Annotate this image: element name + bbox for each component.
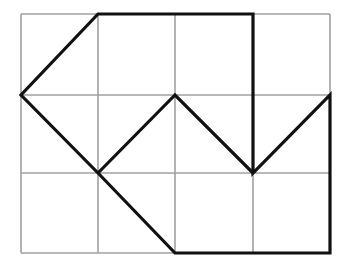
grid-lines — [21, 14, 330, 253]
grid-diagram — [0, 0, 345, 264]
